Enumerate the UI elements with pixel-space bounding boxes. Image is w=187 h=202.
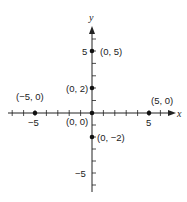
point-0-neg2 (90, 135, 95, 140)
point-label-neg5-0: (−5, 0) (16, 91, 44, 102)
y-tick-label-neg5: −5 (75, 168, 86, 179)
point-0-5 (90, 49, 95, 54)
point-label-5-0: (5, 0) (151, 95, 173, 106)
x-tick-label-neg5: −5 (28, 117, 39, 128)
x-axis-label: x (176, 108, 182, 119)
point-label-0-5: (0, 5) (100, 46, 122, 57)
coordinate-plane: x y −5 5 5 −5 (0, 5) (0, 2) (−5, 0) (5, … (0, 0, 187, 202)
point-label-0-2: (0, 2) (66, 83, 88, 94)
point-label-0-0: (0, 0) (66, 116, 88, 127)
point-0-2 (90, 86, 95, 91)
y-axis-arrow-icon (89, 26, 95, 34)
point-neg5-0 (33, 111, 38, 116)
point-5-0 (147, 111, 152, 116)
point-0-0 (90, 111, 95, 116)
x-axis-arrow-icon (168, 110, 176, 116)
y-tick-label-5: 5 (82, 46, 87, 57)
y-axis-label: y (88, 12, 94, 23)
point-label-0-neg2: (0, −2) (97, 132, 125, 143)
x-tick-label-5: 5 (146, 117, 151, 128)
